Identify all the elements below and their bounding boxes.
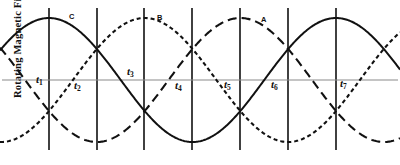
- time-label-subscript: 1: [39, 78, 43, 87]
- time-label-t6: t6: [271, 79, 278, 90]
- time-label-subscript: 5: [227, 83, 231, 92]
- vertical-time-gridlines: [49, 8, 336, 150]
- time-label-subscript: 4: [178, 84, 182, 93]
- time-label-subscript: 7: [343, 82, 347, 91]
- time-label-t2: t2: [74, 80, 81, 91]
- time-label-subscript: 6: [274, 83, 278, 92]
- time-label-t1: t1: [36, 74, 43, 85]
- time-label-t7: t7: [340, 78, 347, 89]
- time-label-t3: t3: [127, 66, 134, 77]
- curve-label-C: C: [69, 13, 74, 21]
- time-label-t5: t5: [224, 79, 231, 90]
- time-label-subscript: 3: [130, 70, 134, 79]
- time-label-subscript: 2: [77, 84, 81, 93]
- curve-label-B: B: [157, 14, 162, 22]
- rotating-magnetic-field-figure: Rotating Magnetic Field t1t2t3t4t5t6t7 C…: [0, 0, 400, 165]
- curve-label-A: A: [261, 16, 266, 24]
- time-label-t4: t4: [175, 80, 182, 91]
